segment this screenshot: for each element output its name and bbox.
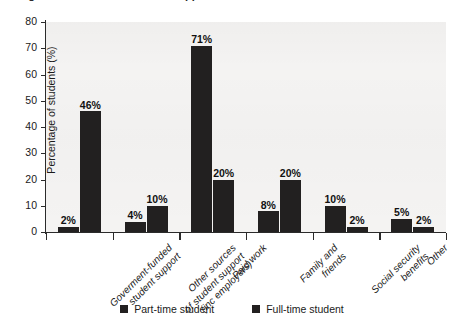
bar-value-label: 2% <box>416 215 431 226</box>
cut-off-caption: Figure: Sources of financial support <box>0 0 464 7</box>
x-axis-category-label: Family andfriends <box>298 242 349 293</box>
y-axis-tick-label: 20 <box>25 173 37 185</box>
bar-value-label: 71% <box>191 34 212 45</box>
x-axis-tick-mark <box>113 233 114 240</box>
x-axis-tick-mark <box>179 233 180 240</box>
bar-rect <box>347 227 368 232</box>
cut-off-caption-text: Figure: Sources of financial support <box>18 0 214 1</box>
legend-label: Full-time student <box>266 303 344 315</box>
bar-chart-figure: Figure: Sources of financial support 010… <box>0 0 464 329</box>
bar: 20% <box>213 180 234 233</box>
legend-item[interactable]: Full-time student <box>252 303 344 315</box>
x-axis-category-label: Social securitybenefits <box>369 242 431 304</box>
bar: 10% <box>147 206 168 232</box>
x-axis-category-label: Other <box>424 242 450 268</box>
bar-rect <box>325 206 346 232</box>
y-axis-tick-label: 0 <box>31 225 37 237</box>
bar-rect <box>280 180 301 233</box>
bar-rect <box>80 111 101 232</box>
y-axis-tick-label: 60 <box>25 68 37 80</box>
x-axis-tick-mark <box>246 233 247 240</box>
legend-item[interactable]: Part-time student <box>120 303 214 315</box>
y-axis-tick-label: 30 <box>25 146 37 158</box>
bar-value-label: 20% <box>280 168 301 179</box>
chart-legend: Part-time studentFull-time student <box>0 303 464 315</box>
plot-area <box>46 22 446 232</box>
bar-value-label: 4% <box>127 210 142 221</box>
y-axis-tick-label: 50 <box>25 94 37 106</box>
x-axis-tick-mark <box>446 233 447 240</box>
bar: 2% <box>58 227 79 232</box>
bar: 20% <box>280 180 301 233</box>
bar-value-label: 2% <box>61 215 76 226</box>
y-axis-tick-mark <box>41 206 46 207</box>
bar-rect <box>58 227 79 232</box>
bar: 8% <box>258 211 279 232</box>
x-axis-tick-mark <box>46 233 47 240</box>
legend-label: Part-time student <box>134 303 214 315</box>
bar: 46% <box>80 111 101 232</box>
y-axis-tick-label: 80 <box>25 15 37 27</box>
bar-rect <box>413 227 434 232</box>
bar-rect <box>258 211 279 232</box>
bar: 5% <box>391 219 412 232</box>
legend-swatch-icon <box>120 305 128 313</box>
bar-rect <box>147 206 168 232</box>
bar-rect <box>191 46 212 232</box>
bar: 4% <box>125 222 146 233</box>
y-axis-tick-label: 70 <box>25 41 37 53</box>
bar-rect <box>125 222 146 233</box>
bar: 2% <box>347 227 368 232</box>
bar-value-label: 10% <box>146 194 167 205</box>
bar-value-label: 8% <box>261 200 276 211</box>
bar-value-label: 20% <box>213 168 234 179</box>
bar: 71% <box>191 46 212 232</box>
bar-value-label: 46% <box>80 100 101 111</box>
bar: 10% <box>325 206 346 232</box>
bar-value-label: 10% <box>324 194 345 205</box>
y-axis-tick-label: 40 <box>25 120 37 132</box>
y-axis-tick-label: 10 <box>25 199 37 211</box>
x-axis-tick-mark <box>379 233 380 240</box>
bar-value-label: 5% <box>394 207 409 218</box>
bar-value-label: 2% <box>349 215 364 226</box>
bar: 2% <box>413 227 434 232</box>
legend-swatch-icon <box>252 305 260 313</box>
x-axis-tick-mark <box>313 233 314 240</box>
y-axis-title: Percentage of students (%) <box>45 15 57 205</box>
bar-rect <box>213 180 234 233</box>
bar-rect <box>391 219 412 232</box>
